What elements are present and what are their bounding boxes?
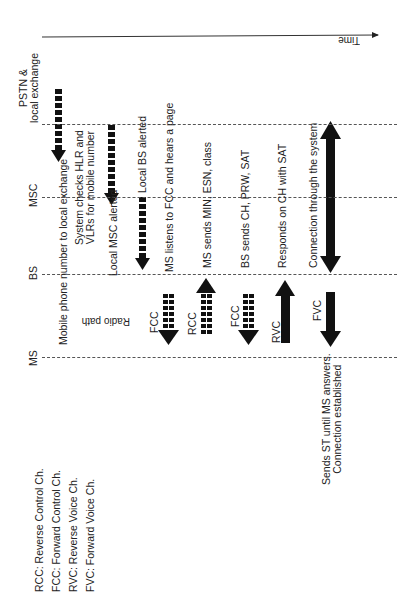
channel-label-fvc: FVC bbox=[311, 300, 323, 321]
lane-line-pstn bbox=[42, 124, 397, 125]
step-1-label: Mobile phone number to local exchange bbox=[57, 159, 69, 345]
legend-fvc: FVC: Forward Voice Ch. bbox=[84, 479, 96, 592]
lane-line-ms bbox=[42, 357, 397, 358]
arrow-rcc bbox=[196, 278, 216, 334]
channel-label-fcc-2: FCC bbox=[229, 305, 241, 327]
step-10-label: Sends ST until MS answers. Connection es… bbox=[321, 353, 343, 485]
lane-label-msc: MSC bbox=[27, 184, 39, 207]
arrow-fvc bbox=[320, 292, 341, 347]
time-axis-arrow bbox=[42, 35, 378, 37]
legend-rcc: RCC: Reverse Control Ch. bbox=[33, 468, 45, 592]
lane-label-ms: MS bbox=[27, 350, 39, 366]
lane-label-pstn: PSTN & local exchange bbox=[18, 53, 40, 123]
step-9-label: Connection through the system bbox=[307, 123, 319, 268]
step-7-label: BS sends CH, PRW, SAT bbox=[239, 150, 251, 268]
step-5-label: MS listens to FCC and hears a page bbox=[163, 103, 175, 272]
channel-label-rcc: RCC bbox=[186, 312, 198, 335]
arrow-pstn-to-msc bbox=[51, 88, 66, 162]
lane-line-bs bbox=[42, 274, 397, 275]
arrow-bs-alerted bbox=[135, 197, 150, 270]
legend-rvc: RVC: Reverse Voice Ch. bbox=[67, 477, 79, 592]
time-label: Time bbox=[338, 35, 360, 46]
step-4-label: Local BS alerted bbox=[136, 116, 148, 193]
arrow-fcc-2 bbox=[238, 294, 259, 345]
step-3-label: Local MSC alerted bbox=[107, 190, 119, 276]
channel-label-fcc-1: FCC bbox=[148, 311, 160, 333]
step-6-label: MS sends MIN, ESN, class bbox=[201, 142, 213, 268]
channel-label-rvc: RVC bbox=[270, 321, 282, 343]
step-8-label: Responds on CH with SAT bbox=[276, 144, 288, 268]
radio-path-label: Radio path bbox=[82, 316, 130, 327]
arrow-fcc-1 bbox=[158, 294, 179, 345]
lane-label-bs: BS bbox=[27, 266, 39, 280]
step-2-label: System checks HLR and VLRs for mobile nu… bbox=[74, 130, 96, 245]
legend-fcc: FCC: Forward Control Ch. bbox=[50, 470, 62, 592]
